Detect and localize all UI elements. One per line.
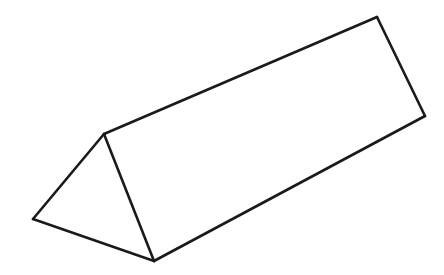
prism-side-face — [104, 17, 425, 261]
triangular-prism-diagram — [0, 0, 444, 275]
edge-front-bottom-to-top — [104, 134, 154, 261]
edge-bottom-long — [154, 116, 425, 261]
edge-top-ridge — [104, 17, 377, 134]
edge-front-top-to-left — [33, 134, 104, 219]
edge-back-vertical — [377, 17, 425, 116]
prism-front-face — [33, 134, 154, 261]
edge-front-left-to-bottom — [33, 219, 154, 261]
